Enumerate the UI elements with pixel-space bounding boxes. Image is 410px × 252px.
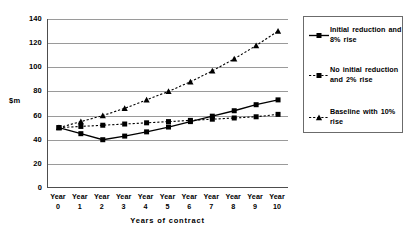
y-tick-label: 100 — [16, 63, 42, 71]
x-axis-tick-labels: Year0Year1Year2Year3Year4Year5Year6Year7… — [47, 192, 288, 218]
legend-entry[interactable]: No initial reduction and 2% rise — [308, 65, 402, 85]
data-point-marker — [275, 28, 281, 34]
plot-area — [47, 19, 288, 188]
x-tick-number: 10 — [262, 202, 292, 212]
data-point-marker — [276, 97, 281, 102]
series-line — [59, 31, 278, 128]
y-tick-label: 120 — [16, 39, 42, 47]
data-point-marker — [166, 125, 171, 130]
y-tick-label: 80 — [16, 87, 42, 95]
data-point-marker — [122, 105, 128, 111]
data-point-marker — [165, 88, 171, 94]
data-point-marker — [254, 114, 259, 119]
data-point-marker — [122, 134, 127, 139]
data-point-marker — [144, 120, 149, 125]
data-point-marker — [187, 79, 193, 85]
data-point-marker — [100, 137, 105, 142]
data-point-marker — [210, 117, 215, 122]
legend-triangle-marker-icon — [308, 108, 330, 117]
series-3 — [56, 28, 281, 130]
x-axis-title: Years of contract — [47, 216, 288, 225]
y-tick-label: 140 — [16, 15, 42, 23]
data-point-marker — [232, 115, 237, 120]
data-point-marker — [254, 102, 259, 107]
legend: Initial reduction and 8% riseNo initial … — [303, 16, 403, 133]
data-point-marker — [317, 33, 322, 38]
y-tick-label: 60 — [16, 112, 42, 120]
data-point-marker — [188, 118, 193, 123]
x-tick-word: Year — [262, 192, 292, 202]
legend-square-marker-icon — [308, 66, 330, 75]
data-point-marker — [100, 123, 105, 128]
y-tick-label: 0 — [16, 184, 42, 192]
legend-entry[interactable]: Initial reduction and 8% rise — [308, 25, 402, 45]
y-tick-label: 20 — [16, 160, 42, 168]
legend-label: No initial reduction and 2% rise — [330, 65, 402, 85]
data-point-marker — [276, 112, 281, 117]
legend-square-marker-icon — [308, 26, 330, 35]
legend-entry[interactable]: Baseline with 10% rise — [308, 107, 402, 127]
data-point-marker — [253, 42, 259, 48]
data-point-marker — [166, 119, 171, 124]
data-point-marker — [143, 97, 149, 103]
data-point-marker — [122, 122, 127, 127]
y-tick-label: 40 — [16, 136, 42, 144]
data-point-marker — [231, 56, 237, 62]
data-point-marker — [316, 114, 322, 120]
line-chart: $m 140120100806040200 Year0Year1Year2Yea… — [0, 0, 410, 252]
series-layer — [48, 19, 289, 188]
x-tick-label: Year10 — [262, 192, 292, 211]
data-point-marker — [100, 112, 106, 118]
data-point-marker — [232, 108, 237, 113]
data-point-marker — [144, 129, 149, 134]
data-point-marker — [209, 68, 215, 74]
y-axis-tick-labels: 140120100806040200 — [8, 0, 42, 252]
data-point-marker — [78, 131, 83, 136]
data-point-marker — [317, 73, 322, 78]
data-point-marker — [78, 124, 83, 129]
legend-label: Baseline with 10% rise — [330, 107, 402, 127]
legend-label: Initial reduction and 8% rise — [330, 25, 402, 45]
